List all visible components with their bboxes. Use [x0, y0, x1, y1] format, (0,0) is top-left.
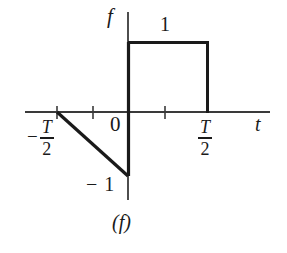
figure-caption: (f): [112, 212, 131, 232]
origin-label: 0: [110, 114, 121, 135]
t-axis-label: t: [255, 114, 261, 134]
fraction-numerator: T: [40, 118, 54, 137]
fraction-t-over-2: T 2: [40, 118, 54, 158]
minus-sign: −: [27, 126, 38, 149]
amplitude-negative-label: − 1: [86, 174, 115, 194]
fraction-numerator: T: [198, 118, 212, 137]
amplitude-positive-label: 1: [160, 14, 170, 34]
fraction-t-over-2: T 2: [198, 118, 212, 158]
fraction-denominator: 2: [199, 139, 212, 158]
f-axis-label: f: [107, 6, 113, 27]
tick-label-minus-t-over-2: − T 2: [27, 118, 54, 158]
tick-label-t-over-2: T 2: [198, 118, 212, 158]
figure-container: f t 1 0 − 1 − T 2 T 2 (f): [0, 0, 287, 253]
fraction-denominator: 2: [40, 139, 53, 158]
